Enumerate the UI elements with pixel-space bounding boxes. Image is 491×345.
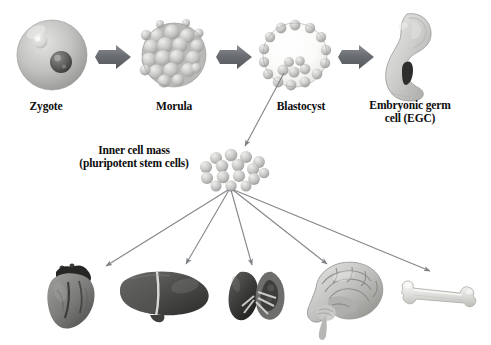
kidney-organ-pair (228, 272, 284, 321)
label-egc-line1: Embryonic germ (369, 99, 450, 111)
arrow-to-kidney (231, 190, 252, 265)
brain-organ (307, 262, 382, 340)
diagram-canvas (0, 0, 491, 345)
label-zygote: Zygote (10, 100, 82, 113)
label-morula: Morula (138, 100, 210, 113)
arrow-to-heart (106, 190, 228, 266)
liver-organ (120, 271, 209, 322)
morula-cell-ball (140, 19, 206, 87)
zygote-cell (17, 20, 87, 90)
label-inner-cell-mass: Inner cell mass (pluripotent stem cells) (60, 144, 208, 170)
label-blastocyst: Blastocyst (260, 100, 342, 113)
label-embryonic-germ-cell: Embryonic germ cell (EGC) (348, 99, 472, 125)
bone-long (402, 281, 476, 307)
inner-cell-mass-cluster (200, 149, 269, 192)
blastocyst-hollow-sphere (259, 20, 331, 91)
heart-organ (47, 266, 94, 329)
label-icm-line1: Inner cell mass (98, 144, 170, 156)
stage-arrow-blastocyst-to-egc (333, 45, 374, 69)
arrow-to-liver (186, 190, 229, 264)
embryo-figure (386, 14, 431, 101)
arrow-to-brain (233, 190, 327, 264)
label-egc-line2: cell (EGC) (385, 112, 436, 124)
arrow-to-bone (234, 190, 430, 271)
stage-arrow-zygote-to-morula (90, 45, 131, 69)
differentiation-arrows (106, 190, 430, 271)
label-icm-line2: (pluripotent stem cells) (79, 157, 188, 169)
stem-cell-differentiation-diagram: Zygote Morula Blastocyst Embryonic germ … (0, 0, 491, 345)
stage-arrow-morula-to-blastocyst (211, 45, 252, 69)
